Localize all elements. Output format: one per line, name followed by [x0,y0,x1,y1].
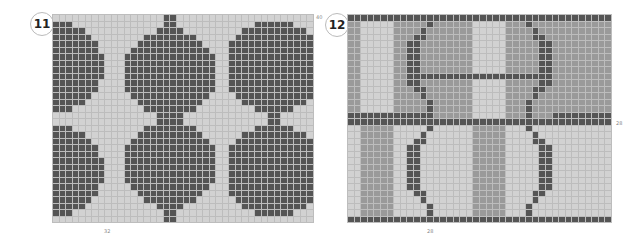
chart-cell [553,54,559,60]
chart-cell [229,132,235,138]
chart-cell [553,191,559,197]
chart-cell [223,171,229,177]
chart-cell [164,93,170,99]
chart-cell [112,106,118,112]
chart-cell [255,184,261,190]
chart-cell [294,158,300,164]
chart-cell [307,152,313,158]
chart-cell [112,217,118,223]
chart-cell [566,178,572,184]
chart-cell [572,152,578,158]
chart-cell [348,35,354,41]
chart-cell [421,15,427,21]
chart-cell [184,61,190,67]
chart-cell [210,152,216,158]
chart-cell [151,41,157,47]
chart-cell [355,106,361,112]
chart-cell [86,41,92,47]
chart-cell [118,41,124,47]
chart-cell [73,35,79,41]
chart-cell [210,106,216,112]
chart-cell [407,158,413,164]
chart-cell [506,41,512,47]
chart-cell [112,15,118,21]
chart-cell [301,184,307,190]
chart-cell [513,54,519,60]
chart-cell [553,93,559,99]
chart-cell [144,184,150,190]
chart-cell [394,15,400,21]
chart-cell [125,35,131,41]
chart-cell [388,106,394,112]
chart-cell [236,93,242,99]
chart-cell [131,93,137,99]
chart-cell [184,48,190,54]
chart-cell [401,28,407,34]
chart-cell [401,74,407,80]
chart-cell [170,87,176,93]
chart-cell [242,158,248,164]
chart-cell [473,113,479,119]
chart-cell [414,54,420,60]
chart-cell [374,197,380,203]
chart-cell [467,93,473,99]
chart-cell [138,191,144,197]
chart-cell [546,210,552,216]
chart-cell [460,48,466,54]
chart-cell [599,87,605,93]
chart-cell [268,87,274,93]
chart-cell [586,93,592,99]
chart-cell [579,54,585,60]
chart-cell [307,48,313,54]
chart-cell [533,22,539,28]
chart-cell [184,132,190,138]
chart-cell [533,93,539,99]
chart-cell [579,165,585,171]
chart-cell [53,197,59,203]
chart-cell [236,54,242,60]
chart-cell [440,178,446,184]
chart-cell [526,41,532,47]
chart-cell [500,158,506,164]
chart-cell [242,22,248,28]
chart-cell [60,217,66,223]
chart-cell [487,210,493,216]
chart-cell [301,126,307,132]
chart-cell [368,197,374,203]
chart-cell [73,93,79,99]
chart-cell [249,191,255,197]
chart-cell [99,132,105,138]
chart-cell [177,210,183,216]
chart-cell [236,132,242,138]
chart-cell [348,171,354,177]
chart-cell [216,80,222,86]
chart-cell [572,119,578,125]
chart-cell [151,22,157,28]
chart-cell [526,191,532,197]
chart-cell [255,217,261,223]
chart-cell [294,87,300,93]
chart-cell [307,74,313,80]
chart-cell [487,106,493,112]
chart-cell [388,152,394,158]
chart-cell [131,145,137,151]
chart-cell [401,139,407,145]
chart-cell [447,178,453,184]
chart-cell [144,15,150,21]
chart-cell [210,15,216,21]
chart-cell [164,132,170,138]
chart-cell [460,54,466,60]
chart-cell [86,210,92,216]
chart-cell [526,152,532,158]
chart-cell [348,184,354,190]
chart-cell [553,119,559,125]
chart-cell [157,184,163,190]
chart-cell [288,61,294,67]
chart-cell [73,15,79,21]
chart-cell [151,158,157,164]
chart-cell [125,22,131,28]
chart-cell [506,48,512,54]
chart-cell [513,210,519,216]
chart-cell [447,119,453,125]
chart-cell [592,67,598,73]
